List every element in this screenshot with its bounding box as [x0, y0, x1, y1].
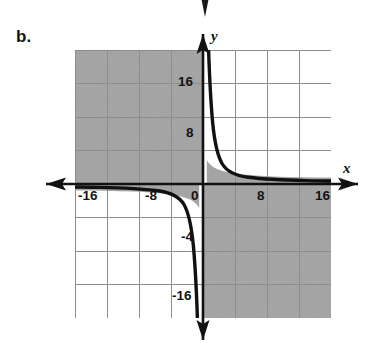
hyperbola-branch-quadrant-1 — [209, 50, 331, 181]
origin-label: 0 — [191, 188, 199, 203]
y-axis-letter: y — [211, 28, 218, 45]
x-tick-label-neg16: -16 — [78, 188, 98, 203]
y-tick-label-8: 8 — [186, 125, 194, 140]
x-tick-label-neg8: -8 — [145, 188, 157, 203]
y-tick-label-16: 16 — [178, 74, 193, 89]
figure-canvas: b. — [0, 0, 367, 353]
x-axis-letter: x — [343, 160, 351, 177]
y-tick-label-neg16: -16 — [172, 288, 192, 303]
x-tick-label-16: 16 — [315, 188, 330, 203]
y-tick-label-neg8: -4 — [181, 229, 193, 244]
x-tick-label-8: 8 — [257, 188, 265, 203]
